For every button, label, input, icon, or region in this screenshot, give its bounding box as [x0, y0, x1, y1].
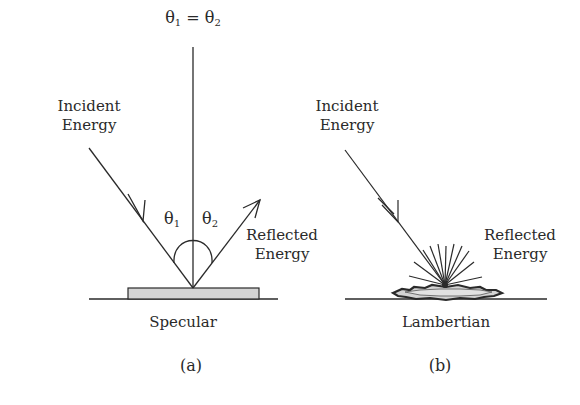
specular-reflected-label: Reflected Energy: [246, 226, 318, 264]
theta1-symbol: θ: [165, 8, 175, 27]
specular-surface-label: Specular: [149, 313, 217, 332]
reflection-diagram: θ1 = θ2 Incident Energy θ1 θ2 Reflected …: [0, 0, 580, 405]
panel-b-label: (b): [429, 356, 452, 375]
theta1-subscript: 1: [175, 17, 181, 28]
lambertian-incident-ray: [345, 150, 445, 285]
lambertian-reflected-label: Reflected Energy: [484, 226, 556, 264]
diffuse-reflected-rays: [409, 244, 482, 285]
specular-surface-plate: [128, 288, 259, 299]
angle-equality-label: θ1 = θ2: [165, 8, 221, 32]
panel-a-label: (a): [180, 356, 202, 375]
equals-sign: =: [186, 8, 199, 27]
specular-incident-label: Incident Energy: [58, 97, 121, 135]
specular-incident-arrowhead-icon: [128, 194, 145, 221]
diagram-drawing: [0, 0, 580, 405]
lambertian-panel-drawing: [345, 150, 547, 300]
lambertian-incident-label: Incident Energy: [316, 97, 379, 135]
theta2-angle-label: θ2: [202, 209, 218, 233]
theta2-subscript: 2: [214, 17, 220, 28]
lambertian-surface-label: Lambertian: [402, 313, 490, 332]
theta2-symbol: θ: [205, 8, 215, 27]
theta1-angle-label: θ1: [164, 209, 180, 233]
